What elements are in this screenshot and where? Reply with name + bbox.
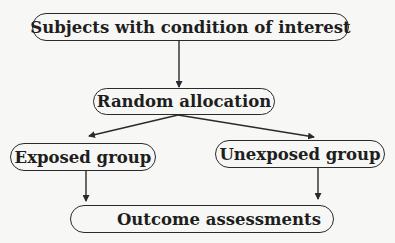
node-exposed-group: Exposed group — [10, 143, 156, 171]
node-unexposed-group-label: Unexposed group — [219, 145, 380, 164]
arrow-random-to-exposed — [89, 115, 178, 136]
node-outcome-assessments-label: Outcome assessments — [117, 210, 321, 229]
node-subjects: Subjects with condition of interest — [32, 13, 349, 41]
arrow-random-to-unexposed — [178, 115, 314, 137]
node-random-allocation: Random allocation — [93, 88, 275, 115]
node-subjects-label: Subjects with condition of interest — [30, 18, 350, 37]
node-unexposed-group: Unexposed group — [215, 140, 385, 168]
node-exposed-group-label: Exposed group — [15, 148, 152, 167]
node-outcome-assessments: Outcome assessments — [70, 205, 334, 233]
node-random-allocation-label: Random allocation — [97, 92, 271, 111]
